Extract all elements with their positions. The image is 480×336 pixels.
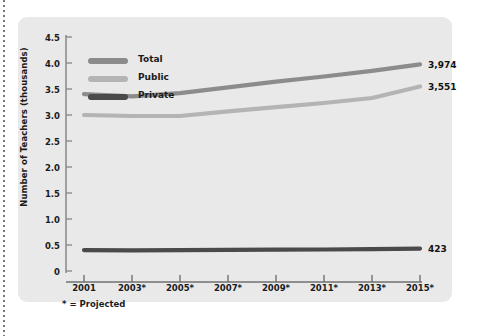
chart-panel: Number of Teachers (thousands) 4.5 4.0 3… [18,17,452,302]
legend-label-public[interactable]: Public [138,72,169,82]
x-tick-label-2005: 2005* [158,283,202,293]
series-line-public [84,87,420,117]
series-line-total [84,64,420,96]
x-axis-ticks [84,275,420,282]
legend-label-private[interactable]: Private [138,90,174,100]
legend-swatch-public [88,76,128,82]
x-tick-label-2009: 2009* [254,283,298,293]
chart-page: Number of Teachers (thousands) 4.5 4.0 3… [0,0,480,336]
footnote-projected: * = Projected [62,299,125,309]
data-label-private: 423 [428,244,447,254]
x-tick-label-2015: 2015* [398,283,442,293]
x-tick-label-2007: 2007* [206,283,250,293]
legend-swatch-total [88,58,128,64]
x-tick-label-2003: 2003* [110,283,154,293]
y-axis-ticks [66,37,72,271]
plot-area [18,17,452,302]
data-label-public: 3,551 [428,82,456,92]
x-tick-label-2013: 2013* [350,283,394,293]
legend-swatch-private [88,94,128,100]
series-line-private [84,249,420,251]
x-tick-label-2001: 2001 [62,283,106,293]
legend-label-total[interactable]: Total [138,54,163,64]
x-tick-label-2011: 2011* [302,283,346,293]
data-label-total: 3,974 [428,60,456,70]
dotted-margin-rule [3,0,5,336]
